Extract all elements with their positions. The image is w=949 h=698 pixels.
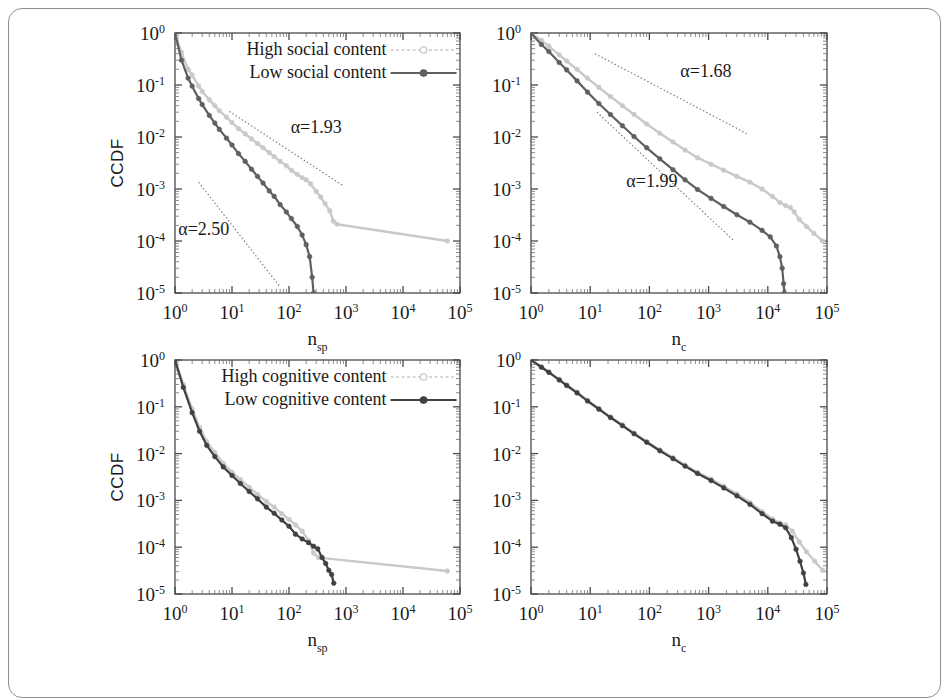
y-tick-label: 10-5 — [136, 583, 165, 605]
y-tick-label: 10-4 — [136, 536, 165, 558]
y-axis-label: CCDF — [108, 452, 127, 501]
x-axis-label: nc — [672, 328, 687, 354]
y-tick-label: 10-2 — [136, 443, 165, 465]
x-tick-label: 100 — [163, 602, 188, 624]
alpha-annotation: α=1.99 — [626, 171, 677, 191]
plot-area — [529, 358, 825, 587]
x-tick-label: 105 — [448, 301, 473, 323]
y-tick-label: 100 — [140, 22, 165, 44]
x-tick-label: 102 — [637, 602, 662, 624]
y-tick-label: 10-4 — [492, 536, 521, 558]
major-ticks: 10010110210310410510010-110-210-310-410-… — [492, 349, 840, 624]
alpha-annotation: α=2.50 — [178, 219, 229, 239]
y-tick-label: 10-5 — [136, 282, 165, 304]
y-tick-label: 10-4 — [492, 230, 521, 252]
alpha-annotation: α=1.68 — [680, 61, 731, 81]
x-axis-label: nc — [672, 629, 687, 655]
x-tick-label: 103 — [696, 301, 721, 323]
x-tick-label: 105 — [815, 301, 840, 323]
x-tick-label: 103 — [334, 301, 359, 323]
x-tick-label: 102 — [277, 602, 302, 624]
x-tick-label: 104 — [391, 602, 416, 624]
series-line — [531, 360, 806, 584]
series-line — [531, 33, 823, 241]
legend-label: High cognitive content — [222, 366, 387, 386]
x-tick-label: 104 — [391, 301, 416, 323]
x-axis-label: nsp — [307, 629, 327, 655]
panel-top-left: 10010110210310410510010-110-210-310-410-… — [108, 22, 473, 354]
x-tick-label: 100 — [163, 301, 188, 323]
x-tick-label: 104 — [755, 602, 780, 624]
x-tick-label: 102 — [637, 301, 662, 323]
y-tick-label: 10-5 — [492, 282, 521, 304]
x-tick-label: 102 — [277, 301, 302, 323]
y-tick-label: 10-2 — [136, 126, 165, 148]
y-tick-label: 10-3 — [136, 178, 165, 200]
plot-frame — [531, 33, 827, 293]
y-tick-label: 100 — [496, 22, 521, 44]
x-tick-label: 101 — [220, 301, 245, 323]
legend-marker-icon — [420, 397, 426, 403]
panel-top-right: 10010110210310410510010-110-210-310-410-… — [492, 22, 840, 354]
series-markers — [529, 31, 787, 296]
series-markers — [529, 31, 825, 244]
panel-bottom-left: 10010110210310410510010-110-210-310-410-… — [108, 349, 473, 655]
y-tick-label: 10-3 — [492, 178, 521, 200]
x-tick-label: 101 — [220, 602, 245, 624]
panel-bottom-right: 10010110210310410510010-110-210-310-410-… — [492, 349, 840, 655]
y-tick-label: 10-1 — [136, 74, 165, 96]
series-markers — [529, 358, 808, 587]
x-tick-label: 103 — [696, 602, 721, 624]
x-tick-label: 104 — [755, 301, 780, 323]
y-tick-label: 10-3 — [492, 489, 521, 511]
legend-marker-icon — [420, 374, 426, 380]
legend-label: Low social content — [250, 62, 387, 82]
minor-ticks — [531, 360, 827, 594]
y-tick-label: 100 — [140, 349, 165, 371]
legend: High social contentLow social content — [247, 39, 457, 82]
minor-ticks — [531, 33, 827, 293]
x-tick-label: 101 — [578, 602, 603, 624]
y-tick-label: 10-2 — [492, 126, 521, 148]
x-tick-label: 105 — [448, 602, 473, 624]
y-tick-label: 100 — [496, 349, 521, 371]
y-tick-label: 10-1 — [492, 396, 521, 418]
x-tick-label: 100 — [519, 602, 544, 624]
y-tick-label: 10-2 — [492, 443, 521, 465]
x-tick-label: 103 — [334, 602, 359, 624]
series-line — [531, 33, 784, 293]
legend: High cognitive contentLow cognitive cont… — [222, 366, 457, 409]
y-tick-label: 10-1 — [136, 396, 165, 418]
y-tick-label: 10-1 — [492, 74, 521, 96]
x-tick-label: 100 — [519, 301, 544, 323]
y-tick-label: 10-5 — [492, 583, 521, 605]
alpha-annotation: α=1.93 — [291, 117, 342, 137]
legend-label: High social content — [247, 39, 387, 59]
legend-marker-icon — [420, 47, 426, 53]
y-axis-label: CCDF — [108, 138, 127, 187]
legend-label: Low cognitive content — [225, 389, 387, 409]
x-tick-label: 101 — [578, 301, 603, 323]
legend-marker-icon — [420, 70, 426, 76]
x-tick-label: 105 — [815, 602, 840, 624]
plot-frame — [531, 360, 827, 594]
y-tick-label: 10-3 — [136, 489, 165, 511]
plot-area — [529, 31, 825, 296]
y-tick-label: 10-4 — [136, 230, 165, 252]
x-axis-label: nsp — [307, 328, 327, 354]
